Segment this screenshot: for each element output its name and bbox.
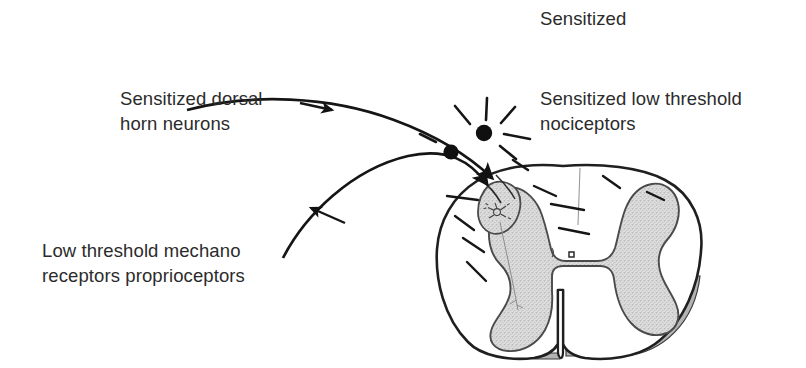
white-matter-tract-dashes xyxy=(447,176,664,281)
label-low-threshold-mechanoreceptors-line2: receptors proprioceptors xyxy=(42,263,245,288)
sensitization-burst-lines xyxy=(420,98,530,170)
lower-afferent-pointer xyxy=(311,208,345,223)
cell-body-lower xyxy=(443,144,458,159)
figure-title: Sensitized xyxy=(540,6,626,31)
upper-afferent-fiber-midarrow xyxy=(300,103,332,110)
label-sensitized-dorsal-horn-neurons-line1: Sensitized dorsal xyxy=(120,86,263,111)
label-sensitized-dorsal-horn-neurons-line2: horn neurons xyxy=(120,111,230,136)
gray-matter-fiber-trace xyxy=(500,222,518,310)
pia-mater-band-right xyxy=(566,276,700,356)
lower-afferent-fiber xyxy=(283,153,487,258)
label-sensitized-low-threshold-nociceptors-line2: nociceptors xyxy=(540,111,636,136)
spinal-cord-illustration xyxy=(0,0,806,368)
ventral-median-fissure xyxy=(558,290,563,358)
cord-group xyxy=(437,165,702,359)
figure-canvas: Sensitized Sensitized dorsal horn neuron… xyxy=(0,0,806,368)
dorsal-median-septum xyxy=(578,168,580,225)
label-low-threshold-mechanoreceptors-line1: Low threshold mechano xyxy=(42,238,241,263)
afferent-fibers xyxy=(187,98,530,258)
dorsal-horn-tip xyxy=(478,182,520,234)
dorsal-root-entry-zone-2 xyxy=(496,175,515,199)
gray-matter-fiber-branch xyxy=(510,300,523,308)
label-sensitized-low-threshold-nociceptors-line1: Sensitized low threshold xyxy=(540,86,742,111)
upper-afferent-fiber xyxy=(187,99,492,178)
cord-outline xyxy=(437,165,702,359)
central-canal xyxy=(569,252,574,257)
cell-body-upper xyxy=(476,125,492,141)
gray-matter-butterfly xyxy=(489,184,679,351)
gray-commissure-mark xyxy=(552,248,554,257)
dorsal-root-entry-zone xyxy=(481,180,501,203)
dorsal-horn-neuron-sketch xyxy=(484,203,512,219)
pia-mater-band xyxy=(458,280,560,359)
